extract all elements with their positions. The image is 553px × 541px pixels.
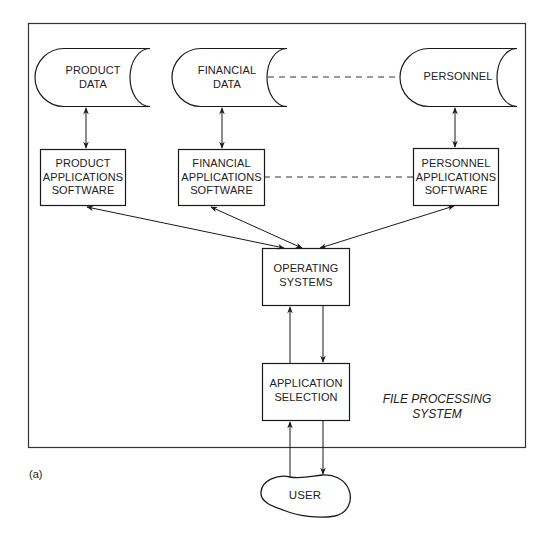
caption-file-processing-system: FILE PROCESSING SYSTEM xyxy=(372,392,502,422)
arrow-personnel-software-os xyxy=(320,206,454,248)
label-application-selection: APPLICATION SELECTION xyxy=(262,377,350,404)
label-product-applications-software: PRODUCT APPLICATIONS SOFTWARE xyxy=(40,157,126,198)
label-product-data: PRODUCT DATA xyxy=(58,64,128,91)
figure-label: (a) xyxy=(29,468,42,480)
arrow-product-software-os xyxy=(87,207,284,248)
label-personnel-applications-software: PERSONNEL APPLICATIONS SOFTWARE xyxy=(413,157,499,198)
label-personnel: PERSONNEL xyxy=(418,70,498,84)
label-user: USER xyxy=(270,489,340,503)
label-financial-applications-software: FINANCIAL APPLICATIONS SOFTWARE xyxy=(178,157,265,198)
label-financial-data: FINANCIAL DATA xyxy=(192,64,262,91)
label-operating-systems: OPERATING SYSTEMS xyxy=(262,262,350,289)
